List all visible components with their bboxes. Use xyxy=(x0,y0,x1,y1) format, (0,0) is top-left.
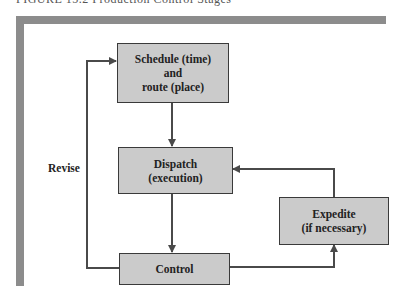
node-dispatch: Dispatch (execution) xyxy=(118,147,233,194)
node-control: Control xyxy=(119,253,230,285)
node-expedite-line-2: (if necessary) xyxy=(302,221,367,235)
node-expedite: Expedite (if necessary) xyxy=(279,197,389,245)
arrow-revise-to-schedule xyxy=(87,61,119,268)
node-expedite-line-1: Expedite xyxy=(302,207,367,221)
node-schedule-line-1: Schedule (time) xyxy=(135,52,211,66)
arrow-expedite-to-dispatch xyxy=(233,169,334,197)
node-control-line-1: Control xyxy=(155,262,193,276)
node-schedule: Schedule (time) and route (place) xyxy=(117,43,229,103)
arrow-control-to-expedite xyxy=(229,245,334,267)
node-dispatch-line-1: Dispatch xyxy=(148,157,202,171)
node-schedule-line-2: and xyxy=(135,66,211,80)
revise-label: Revise xyxy=(48,162,80,174)
node-schedule-line-3: route (place) xyxy=(135,80,211,94)
node-dispatch-line-2: (execution) xyxy=(148,171,202,185)
